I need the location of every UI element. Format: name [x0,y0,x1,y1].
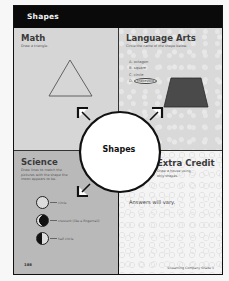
moon-row-full[interactable]: circle [36,196,66,209]
moon-row-crescent[interactable]: crescent (like a fingernail) [36,214,100,227]
page-header: Shapes [14,6,222,28]
worksheet-page: Shapes Math Draw a triangle. Language Ar… [13,5,223,275]
math-title: Math [21,33,45,43]
language-arts-title: Language Arts [126,33,196,43]
circled-answer: trapezoid [134,78,157,84]
shape-name-options: A. octagon B. square C. circle D. trapez… [129,59,157,84]
page-number: 188 [24,262,32,267]
full-moon-icon [36,196,49,209]
language-arts-instruction: Circle the name of the shape below. [126,44,187,49]
crescent-moon-icon [36,214,49,227]
moon-row-half[interactable]: half circle [36,232,73,245]
science-title: Science [21,157,58,167]
science-instruction: Draw lines to match the pictures with th… [21,168,69,182]
center-title: Shapes [94,145,144,154]
triangle-drawing [47,58,95,98]
math-instruction: Draw a triangle. [21,44,48,49]
option-d[interactable]: D. trapezoid [129,78,157,84]
half-moon-icon [36,232,49,245]
header-title: Shapes [27,12,59,21]
footer-credit: ©Learning Company Grade 1 [167,266,214,270]
